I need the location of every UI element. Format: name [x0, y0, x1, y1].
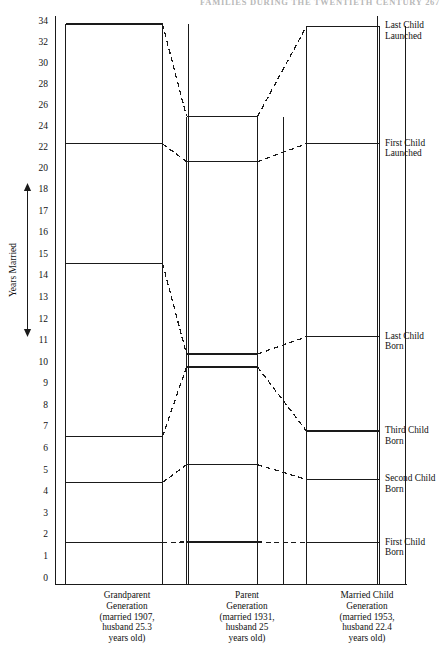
- event-label: Last ChildLaunched: [385, 20, 424, 41]
- y-tick-label: 30: [22, 59, 48, 69]
- event-label: Third ChildBorn: [385, 425, 429, 446]
- generation-caption-line: Parent: [181, 590, 313, 601]
- generation-caption-line: husband 25.3: [61, 622, 193, 633]
- y-tick-label: 2: [22, 530, 48, 540]
- y-tick-label: 9: [22, 379, 48, 389]
- chart-canvas: [0, 0, 448, 653]
- y-tick-label: 17: [22, 207, 48, 217]
- event-label: First ChildLaunched: [385, 138, 425, 159]
- y-tick-label: 6: [22, 444, 48, 454]
- y-tick-label: 8: [22, 401, 48, 411]
- connector-line: [258, 26, 307, 116]
- generation-caption-line: husband 22.4: [301, 622, 433, 633]
- generation-caption-line: years old): [181, 633, 313, 644]
- generation-caption-line: husband 25: [181, 622, 313, 633]
- connector-line: [258, 337, 307, 354]
- event-label-line2: Born: [385, 547, 425, 558]
- generation-caption-line: Generation: [61, 601, 193, 612]
- y-tick-label: 18: [22, 185, 48, 195]
- event-label-line1: Third Child: [385, 425, 429, 436]
- y-tick-label: 3: [22, 509, 48, 519]
- connector-line: [163, 144, 187, 162]
- y-tick-label: 24: [22, 122, 48, 132]
- y-tick-label: 10: [22, 358, 48, 368]
- event-label-line2: Born: [385, 436, 429, 447]
- generation-caption-line: Generation: [301, 601, 433, 612]
- event-label-line1: First Child: [385, 138, 425, 149]
- generation-caption-line: Married Child: [301, 590, 433, 601]
- y-tick-label: 7: [22, 422, 48, 432]
- connector-line: [258, 465, 307, 480]
- y-tick-label: 32: [22, 38, 48, 48]
- y-tick-label: 26: [22, 101, 48, 111]
- generation-caption-line: (married 1931,: [181, 612, 313, 623]
- event-label: Second ChildBorn: [385, 473, 435, 494]
- y-tick-label: 34: [22, 17, 48, 27]
- generation-caption-line: (married 1953,: [301, 612, 433, 623]
- connector-line: [258, 542, 307, 543]
- event-label-line2: Launched: [385, 148, 425, 159]
- connector-line: [258, 144, 307, 162]
- y-tick-label: 5: [22, 466, 48, 476]
- event-label-line1: Second Child: [385, 473, 435, 484]
- event-label-line1: First Child: [385, 537, 425, 548]
- generation-caption-line: (married 1907,: [61, 612, 193, 623]
- event-label: First ChildBorn: [385, 537, 425, 558]
- generation-caption: ParentGeneration(married 1931,husband 25…: [181, 590, 313, 644]
- generation-caption-line: years old): [61, 633, 193, 644]
- y-tick-label: 22: [22, 143, 48, 153]
- event-label-line2: Born: [385, 484, 435, 495]
- generation-caption-line: Grandparent: [61, 590, 193, 601]
- y-tick-label: 11: [22, 336, 48, 346]
- connector-line: [163, 465, 187, 483]
- y-tick-label: 0: [22, 574, 48, 584]
- y-tick-label: 20: [22, 164, 48, 174]
- y-tick-label: 4: [22, 487, 48, 497]
- chart-figure: FAMILIES DURING THE TWENTIETH CENTURY 26…: [0, 0, 448, 653]
- connector-line: [163, 263, 187, 354]
- y-tick-label: 1: [22, 552, 48, 562]
- event-label-line1: Last Child: [385, 331, 424, 342]
- y-tick-label: 16: [22, 228, 48, 238]
- event-label: Last ChildBorn: [385, 331, 424, 352]
- connector-line: [163, 367, 187, 436]
- y-tick-label: 12: [22, 315, 48, 325]
- y-tick-label: 14: [22, 271, 48, 281]
- event-label-line2: Launched: [385, 31, 424, 42]
- connector-line: [258, 367, 307, 431]
- generation-caption-line: Generation: [181, 601, 313, 612]
- y-tick-label: 28: [22, 80, 48, 90]
- event-label-line1: Last Child: [385, 20, 424, 31]
- connector-line: [163, 24, 187, 116]
- event-label-line2: Born: [385, 341, 424, 352]
- y-tick-label: 15: [22, 250, 48, 260]
- generation-caption: GrandparentGeneration(married 1907,husba…: [61, 590, 193, 644]
- y-tick-label: 13: [22, 293, 48, 303]
- generation-caption-line: years old): [301, 633, 433, 644]
- generation-caption: Married ChildGeneration(married 1953,hus…: [301, 590, 433, 644]
- y-axis-title: Years Married: [8, 234, 18, 306]
